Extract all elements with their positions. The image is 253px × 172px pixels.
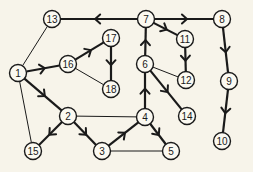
node-label: 3 [99,146,105,157]
node-12: 12 [178,72,195,89]
undirected-edge-line [20,81,32,142]
node-label: 12 [180,75,192,86]
node-17: 17 [103,30,120,47]
directed-edge-line [24,79,61,111]
edge-1-2 [24,79,61,111]
node-label: 15 [27,146,39,157]
edge-17-18 [107,47,116,81]
directed-edge-line [39,122,62,145]
node-label: 4 [142,112,148,123]
edge-6-12 [153,67,178,77]
undirected-edge-line [153,67,178,77]
node-4: 4 [137,109,154,126]
node-label: 18 [105,84,117,95]
undirected-edge-line [76,116,136,117]
edge-2-4 [76,116,136,117]
node-5: 5 [163,143,180,160]
node-15: 15 [25,143,42,160]
edge-6-7 [141,27,150,55]
node-1: 1 [10,65,27,82]
edge-1-15 [20,81,32,142]
edge-4-5 [150,124,166,144]
node-11: 11 [177,31,194,48]
node-13: 13 [44,11,61,28]
node-8: 8 [214,11,231,28]
edge-7-11 [154,23,178,35]
edge-16-17 [75,42,103,59]
edge-7-8 [155,15,214,24]
node-label: 11 [180,34,191,45]
node-label: 1 [15,68,21,79]
node-label: 14 [181,111,193,122]
directed-edge-line [74,122,96,145]
directed-edge-line [109,122,139,145]
node-10: 10 [214,133,231,150]
edge-11-12 [181,47,190,71]
node-label: 6 [142,59,148,70]
node-16: 16 [60,56,77,73]
node-label: 8 [219,14,225,25]
node-3: 3 [94,143,111,160]
node-label: 2 [65,111,71,122]
edge-2-3 [74,122,96,145]
node-label: 10 [216,136,228,147]
node-label: 5 [168,146,174,157]
edges-layer [20,15,231,152]
graph-diagram: 123456789101112131415161718 [0,0,253,172]
node-18: 18 [103,81,120,98]
edge-3-4 [109,122,139,145]
node-label: 9 [226,76,232,87]
edge-16-18 [75,68,103,84]
undirected-edge-line [23,26,48,66]
edge-7-13 [61,15,138,24]
undirected-edge-line [75,68,103,84]
edge-1-16 [26,65,59,74]
node-2: 2 [60,108,77,125]
node-14: 14 [179,108,196,125]
edge-1-13 [23,26,48,66]
node-9: 9 [221,73,238,90]
node-label: 13 [46,14,58,25]
edge-4-6 [141,73,150,109]
node-label: 17 [105,33,117,44]
node-label: 7 [143,14,149,25]
node-label: 16 [62,59,74,70]
node-6: 6 [137,56,154,73]
edge-2-15 [39,122,62,145]
edge-8-9 [221,27,230,72]
edge-9-10 [221,89,230,132]
node-7: 7 [138,11,155,28]
